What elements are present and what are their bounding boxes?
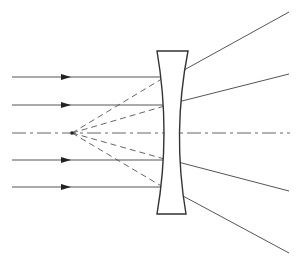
virtual-focal-point	[70, 131, 74, 135]
arrowhead-icon	[61, 102, 71, 108]
arrowhead-icon	[61, 74, 71, 80]
diverging-lens-diagram	[0, 0, 301, 263]
refracted-ray	[183, 196, 289, 253]
incident-ray	[12, 184, 163, 190]
arrowhead-icon	[61, 157, 71, 163]
incident-ray	[12, 74, 163, 80]
virtual-ray-extension	[72, 105, 168, 133]
refracted-ray	[184, 12, 289, 70]
incident-ray	[12, 157, 167, 163]
refracted-ray	[178, 74, 289, 102]
virtual-ray-extension	[72, 133, 168, 160]
incident-rays	[12, 74, 167, 190]
virtual-ray-extensions	[72, 77, 168, 187]
arrowhead-icon	[61, 184, 71, 190]
incident-ray	[12, 102, 167, 108]
concave-lens	[157, 51, 188, 214]
refracted-ray	[178, 162, 289, 191]
